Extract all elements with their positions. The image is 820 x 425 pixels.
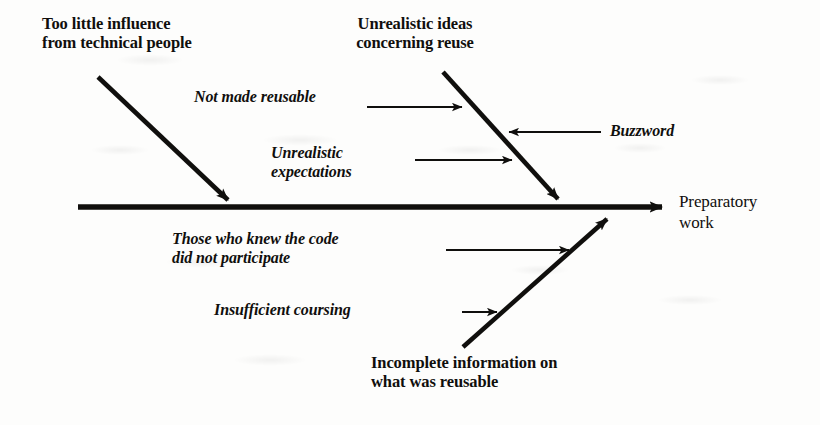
cause-label-unrealistic-ideas: Unrealistic ideas concerning reuse [330, 14, 500, 53]
cause-label-incomplete-information: Incomplete information on what was reusa… [371, 353, 671, 392]
bone-incomplete-information [463, 219, 607, 347]
effect-label-preparatory-work: Preparatory work [679, 191, 809, 234]
sub-cause-label-not-made-reusable: Not made reusable [194, 88, 374, 107]
sub-cause-label-unrealistic-expectations: Unrealistic expectations [271, 144, 421, 182]
bone-unrealistic-ideas [443, 72, 558, 199]
sub-cause-label-those-who-knew-the-code: Those who knew the code did not particip… [172, 230, 442, 268]
sub-cause-label-insufficient-coursing: Insufficient coursing [214, 301, 454, 320]
cause-label-too-little-influence: Too little influence from technical peop… [42, 14, 302, 53]
sub-cause-label-buzzword: Buzzword [610, 122, 750, 141]
fishbone-diagram: Too little influence from technical peop… [0, 0, 820, 425]
